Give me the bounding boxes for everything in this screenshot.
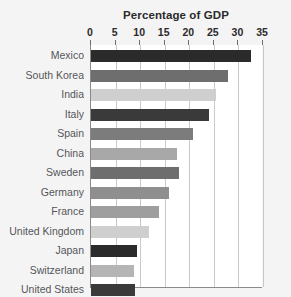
bar <box>91 109 209 121</box>
chart-row: Spain <box>0 124 291 144</box>
x-tick-label: 10 <box>133 26 145 38</box>
category-label: Sweden <box>0 163 84 183</box>
category-label: United States <box>0 280 84 297</box>
chart-row: United Kingdom <box>0 222 291 242</box>
x-tick-label: 20 <box>182 26 194 38</box>
x-tick-label: 0 <box>87 26 93 38</box>
x-tick-label: 35 <box>256 26 268 38</box>
bar <box>91 89 216 101</box>
x-axis-tick-labels: 05101520253035 <box>90 26 262 40</box>
bar <box>91 128 193 140</box>
chart-row: India <box>0 85 291 105</box>
category-label: Japan <box>0 241 84 261</box>
chart-row: Germany <box>0 183 291 203</box>
category-label: France <box>0 202 84 222</box>
category-label: South Korea <box>0 66 84 86</box>
bar <box>91 284 135 296</box>
x-tick-label: 25 <box>207 26 219 38</box>
bar <box>91 265 134 277</box>
bar <box>91 167 179 179</box>
category-label: Mexico <box>0 46 84 66</box>
bar <box>91 226 149 238</box>
x-tick-label: 30 <box>232 26 244 38</box>
bar-chart-figure: Percentage of GDP 05101520253035 MexicoS… <box>0 0 291 297</box>
category-label: Italy <box>0 105 84 125</box>
chart-rows: MexicoSouth KoreaIndiaItalySpainChinaSwe… <box>0 45 291 288</box>
category-label: Germany <box>0 183 84 203</box>
chart-row: United States <box>0 280 291 297</box>
category-label: China <box>0 144 84 164</box>
chart-title: Percentage of GDP <box>90 9 262 21</box>
category-label: Switzerland <box>0 261 84 281</box>
chart-row: South Korea <box>0 66 291 86</box>
chart-row: Japan <box>0 241 291 261</box>
bar <box>91 206 159 218</box>
bar <box>91 70 228 82</box>
category-label: Spain <box>0 124 84 144</box>
x-tick-label: 5 <box>112 26 118 38</box>
chart-row: Switzerland <box>0 261 291 281</box>
chart-row: Mexico <box>0 46 291 66</box>
chart-row: Sweden <box>0 163 291 183</box>
bar <box>91 148 177 160</box>
category-label: India <box>0 85 84 105</box>
chart-row: Italy <box>0 105 291 125</box>
bar <box>91 50 251 62</box>
bar <box>91 245 137 257</box>
category-label: United Kingdom <box>0 222 84 242</box>
x-tick-label: 15 <box>158 26 170 38</box>
chart-row: China <box>0 144 291 164</box>
chart-row: France <box>0 202 291 222</box>
bar <box>91 187 169 199</box>
